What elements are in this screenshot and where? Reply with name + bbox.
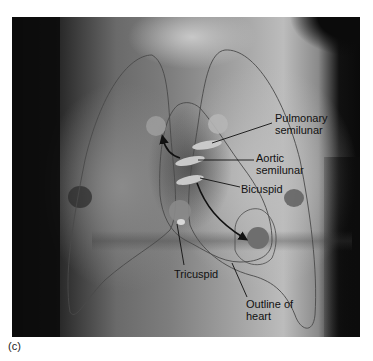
aortic-valve-ellipse (174, 154, 205, 168)
tricuspid-leader-line (177, 224, 184, 265)
pulmonary-label-line2: semilunar (275, 124, 328, 136)
bicuspid-auscultation-point (247, 227, 269, 249)
outline-leader-line (232, 263, 247, 297)
bicuspid-label-text: Bicuspid (241, 183, 283, 195)
tricuspid-valve-marker (177, 219, 185, 225)
pulmonary-auscultation-point (208, 114, 228, 134)
pulmonary-label-line1: Pulmonary (275, 112, 328, 124)
aortic-label-line2: semilunar (256, 164, 304, 176)
pulmonary-semilunar-label: Pulmonary semilunar (275, 112, 328, 136)
right-nipple (284, 189, 304, 207)
tricuspid-label-text: Tricuspid (174, 268, 218, 280)
pulmonary-valve-ellipse (192, 138, 223, 151)
bicuspid-arrow (197, 183, 244, 238)
bicuspid-label: Bicuspid (241, 183, 283, 195)
left-nipple (68, 186, 92, 208)
aortic-label-line1: Aortic (256, 152, 304, 164)
tricuspid-auscultation-point (169, 200, 191, 222)
anatomy-overlay (0, 0, 373, 361)
aortic-auscultation-point (146, 116, 166, 136)
bicuspid-leader-line (200, 178, 240, 187)
panel-label: (c) (8, 340, 21, 352)
outline-of-heart-label: Outline of heart (246, 298, 293, 322)
aortic-semilunar-label: Aortic semilunar (256, 152, 304, 176)
outline-label-line1: Outline of (246, 298, 293, 310)
outline-label-line2: heart (246, 310, 293, 322)
tricuspid-label: Tricuspid (174, 268, 218, 280)
